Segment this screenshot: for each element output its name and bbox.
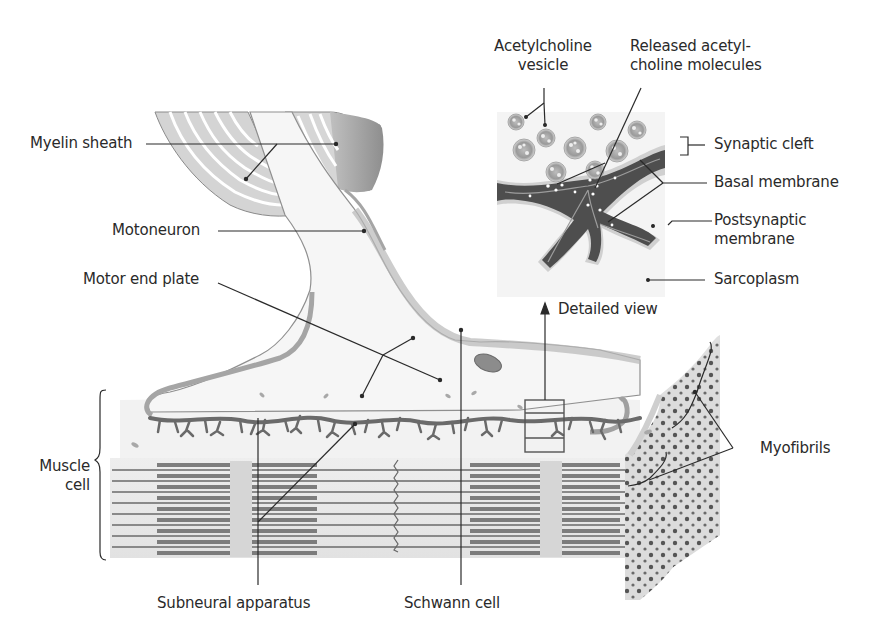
label-synaptic-cleft: Synaptic cleft [714, 135, 813, 154]
diagram-illustration [0, 0, 875, 643]
label-released-acetylcholine-line1: Released acetyl- [630, 37, 762, 56]
label-acetylcholine-vesicle-line1: Acetylcholine [480, 37, 606, 56]
label-acetylcholine-vesicle-line2: vesicle [480, 56, 606, 75]
label-postsynaptic-membrane-line2: membrane [714, 230, 806, 249]
label-schwann-cell: Schwann cell [404, 594, 500, 613]
detail-view-inset [497, 112, 665, 297]
label-myofibrils: Myofibrils [760, 439, 830, 458]
label-subneural-apparatus: Subneural apparatus [157, 594, 310, 613]
label-muscle-cell: Muscle cell [30, 457, 90, 495]
label-muscle-cell-line1: Muscle [30, 457, 90, 476]
label-postsynaptic-membrane: Postsynaptic membrane [714, 211, 806, 249]
label-detailed-view: Detailed view [558, 300, 658, 319]
neuromuscular-junction-diagram: Myelin sheath Motoneuron Motor end plate… [0, 0, 875, 643]
label-postsynaptic-membrane-line1: Postsynaptic [714, 211, 806, 230]
label-motoneuron: Motoneuron [112, 221, 200, 240]
label-muscle-cell-line2: cell [30, 476, 90, 495]
label-released-acetylcholine-line2: choline molecules [630, 56, 762, 75]
label-released-acetylcholine: Released acetyl- choline molecules [630, 37, 762, 75]
label-acetylcholine-vesicle: Acetylcholine vesicle [480, 37, 606, 75]
label-motor-end-plate: Motor end plate [83, 270, 199, 289]
label-myelin-sheath: Myelin sheath [30, 134, 132, 153]
label-sarcoplasm: Sarcoplasm [714, 270, 799, 289]
label-basal-membrane: Basal membrane [714, 173, 839, 192]
